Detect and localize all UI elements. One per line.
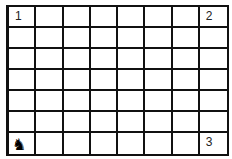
board-cell[interactable] [118,91,145,112]
board-cell[interactable] [145,91,172,112]
board-cell[interactable]: ♞ [9,133,36,154]
board-cell[interactable] [145,49,172,70]
board-cell[interactable] [118,112,145,133]
board-cell[interactable] [173,70,200,91]
board-cell[interactable] [145,112,172,133]
board-cell[interactable] [64,7,91,28]
board-cell[interactable] [200,91,227,112]
board-cell[interactable] [200,112,227,133]
board-cell[interactable] [36,91,63,112]
board-cell[interactable] [173,7,200,28]
board-cell[interactable] [64,28,91,49]
cell-number-label: 3 [206,135,213,149]
board-cell[interactable] [118,49,145,70]
board-cell[interactable] [118,133,145,154]
knight-icon[interactable]: ♞ [12,137,26,153]
cell-number-label: 2 [206,9,213,23]
board-cell[interactable] [9,112,36,133]
board-cell[interactable] [91,91,118,112]
board-cell[interactable] [64,112,91,133]
board-cell[interactable] [145,70,172,91]
board-cell[interactable]: 1 [9,7,36,28]
board-cell[interactable] [9,28,36,49]
board-cell[interactable] [91,70,118,91]
board-cell[interactable] [64,133,91,154]
board-cell[interactable] [64,49,91,70]
board-cell[interactable] [118,7,145,28]
board-cell[interactable] [200,28,227,49]
board-cell[interactable] [173,49,200,70]
board-cell[interactable]: 2 [200,7,227,28]
board-cell[interactable] [91,133,118,154]
game-board: 12♞3 [6,5,229,156]
board-cell[interactable] [9,49,36,70]
board-cell[interactable] [36,49,63,70]
board-cell[interactable] [173,133,200,154]
board-cell[interactable] [200,70,227,91]
board-cell[interactable] [173,28,200,49]
board-cell[interactable] [145,133,172,154]
board-cell[interactable] [64,91,91,112]
board-cell[interactable]: 3 [200,133,227,154]
cell-number-label: 1 [15,9,22,23]
board-cell[interactable] [64,70,91,91]
board-cell[interactable] [91,49,118,70]
board-cell[interactable] [9,70,36,91]
board-cell[interactable] [9,91,36,112]
board-cell[interactable] [173,91,200,112]
board-cell[interactable] [145,28,172,49]
board-cell[interactable] [91,28,118,49]
board-cell[interactable] [173,112,200,133]
board-cell[interactable] [118,70,145,91]
board-cell[interactable] [118,28,145,49]
board-cell[interactable] [36,112,63,133]
board-cell[interactable] [145,7,172,28]
board-cell[interactable] [91,112,118,133]
board-cell[interactable] [36,70,63,91]
board-cell[interactable] [36,7,63,28]
board-cell[interactable] [200,49,227,70]
board-cell[interactable] [36,28,63,49]
board-cell[interactable] [91,7,118,28]
board-cell[interactable] [36,133,63,154]
